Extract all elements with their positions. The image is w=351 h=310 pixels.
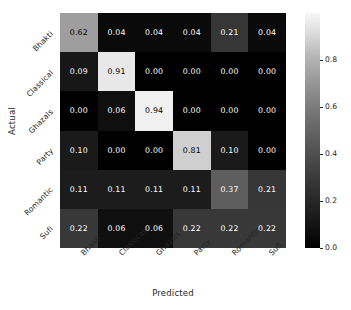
heatmap-cell: 0.00 — [173, 91, 211, 130]
colorbar-gradient — [305, 13, 320, 248]
heatmap-cell: 0.00 — [211, 91, 249, 130]
heatmap-cell: 0.00 — [248, 131, 286, 170]
colorbar-tick-value: 0.2 — [325, 197, 337, 205]
heatmap-cell: 0.10 — [60, 131, 98, 170]
heatmap-cell: 0.00 — [173, 52, 211, 91]
colorbar-tick-mark — [320, 60, 323, 61]
heatmap-cell: 0.11 — [60, 170, 98, 209]
colorbar-tick-value: 0.8 — [325, 56, 337, 64]
heatmap-cell: 0.11 — [135, 170, 173, 209]
heatmap-grid: 0.620.040.040.040.210.040.090.910.000.00… — [60, 13, 286, 248]
heatmap-cell-value: 0.21 — [220, 28, 238, 37]
heatmap-cell-value: 0.00 — [183, 106, 201, 115]
heatmap-cell: 0.00 — [135, 52, 173, 91]
heatmap-cell: 0.06 — [98, 91, 136, 130]
heatmap-cell: 0.00 — [60, 91, 98, 130]
heatmap-cell-value: 0.91 — [107, 67, 125, 76]
heatmap-cell: 0.04 — [248, 13, 286, 52]
heatmap-cell-value: 0.37 — [220, 185, 238, 194]
heatmap-cell-value: 0.11 — [70, 185, 88, 194]
heatmap-cell-value: 0.11 — [183, 185, 201, 194]
heatmap-cell-value: 0.11 — [145, 185, 163, 194]
confusion-matrix-figure: Actual BhaktiClassicalGhazalsPartyRomant… — [0, 0, 351, 310]
colorbar-tick-mark — [320, 154, 323, 155]
heatmap-cell-value: 0.81 — [183, 146, 201, 155]
heatmap-cell-value: 0.22 — [70, 224, 88, 233]
heatmap-cell: 0.91 — [98, 52, 136, 91]
heatmap-cell-value: 0.11 — [107, 185, 125, 194]
colorbar-tick-mark — [320, 201, 323, 202]
colorbar-tick-value: 0.4 — [325, 150, 337, 158]
heatmap-cell-value: 0.00 — [220, 67, 238, 76]
colorbar-tick-value: 0.6 — [325, 103, 337, 111]
heatmap-cell: 0.00 — [248, 91, 286, 130]
y-tick-label-party: Party — [35, 146, 56, 167]
heatmap-cell: 0.11 — [173, 170, 211, 209]
heatmap-cell-value: 0.22 — [220, 224, 238, 233]
y-tick-label-bhakti: Bhakti — [31, 29, 55, 53]
colorbar-tick-mark — [320, 248, 323, 249]
heatmap-cell: 0.62 — [60, 13, 98, 52]
heatmap-cell: 0.04 — [173, 13, 211, 52]
heatmap-cell: 0.81 — [173, 131, 211, 170]
heatmap-cell-value: 0.09 — [70, 67, 88, 76]
heatmap-cell: 0.21 — [211, 13, 249, 52]
x-axis-title: Predicted — [60, 288, 286, 298]
heatmap-cell-value: 0.10 — [70, 146, 88, 155]
heatmap-cell-value: 0.21 — [258, 185, 276, 194]
y-tick-label-classical: Classical — [25, 68, 55, 98]
colorbar-tick-value: 0.0 — [325, 244, 337, 252]
heatmap-cell-value: 0.00 — [145, 67, 163, 76]
heatmap-cell-value: 0.06 — [107, 106, 125, 115]
heatmap-cell-value: 0.04 — [107, 28, 125, 37]
heatmap-cell: 0.00 — [248, 52, 286, 91]
heatmap-cell-value: 0.00 — [258, 106, 276, 115]
heatmap-cell-value: 0.22 — [183, 224, 201, 233]
heatmap-cell-value: 0.06 — [145, 224, 163, 233]
heatmap-cell: 0.04 — [135, 13, 173, 52]
y-axis-tick-labels: BhaktiClassicalGhazalsPartyRomanticSufi — [0, 13, 56, 248]
heatmap-cell: 0.10 — [211, 131, 249, 170]
heatmap-cell-value: 0.04 — [258, 28, 276, 37]
x-axis-tick-labels: BhaktiClassicalGhazalsPartyRomanticSufi — [60, 248, 286, 288]
heatmap-cell-value: 0.00 — [70, 106, 88, 115]
heatmap-cell-value: 0.00 — [258, 67, 276, 76]
heatmap-cell: 0.11 — [98, 170, 136, 209]
heatmap-cell-value: 0.10 — [220, 146, 238, 155]
y-tick-label-ghazals: Ghazals — [27, 107, 55, 135]
heatmap-cell: 0.00 — [211, 52, 249, 91]
heatmap-cell-value: 0.00 — [183, 67, 201, 76]
heatmap-cell-value: 0.06 — [107, 224, 125, 233]
heatmap-cell-value: 0.00 — [258, 146, 276, 155]
heatmap-cell-value: 0.94 — [145, 106, 163, 115]
heatmap-cell-value: 0.04 — [145, 28, 163, 37]
heatmap-cell-value: 0.04 — [183, 28, 201, 37]
heatmap-cell-value: 0.62 — [70, 28, 88, 37]
y-tick-label-romantic: Romantic — [23, 186, 55, 218]
heatmap-cell: 0.09 — [60, 52, 98, 91]
heatmap-cell: 0.94 — [135, 91, 173, 130]
heatmap-cell: 0.04 — [98, 13, 136, 52]
colorbar-tick-labels: 0.00.20.40.60.8 — [320, 13, 350, 248]
colorbar-tick-mark — [320, 107, 323, 108]
heatmap-cell-value: 0.00 — [145, 146, 163, 155]
heatmap-cell: 0.21 — [248, 170, 286, 209]
heatmap-cell-value: 0.00 — [220, 106, 238, 115]
heatmap-cell: 0.37 — [211, 170, 249, 209]
heatmap-cell: 0.00 — [135, 131, 173, 170]
y-tick-label-sufi: Sufi — [38, 225, 55, 242]
heatmap-cell: 0.00 — [98, 131, 136, 170]
heatmap-cell-value: 0.00 — [107, 146, 125, 155]
